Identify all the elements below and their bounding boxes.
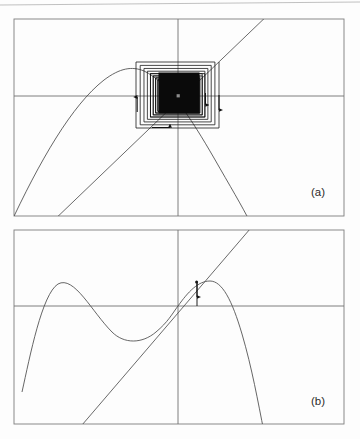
panel-b-fixed-point-marker — [195, 281, 198, 284]
figure-svg: (a) (b) — [0, 0, 360, 439]
figure-container: (a) (b) — [0, 0, 360, 439]
panel-a-fixed-point-dot — [177, 94, 180, 97]
page-background — [0, 0, 360, 439]
panel-a-label: (a) — [311, 186, 325, 198]
panel-b-label: (b) — [311, 395, 325, 407]
panel-a-cobweb-core — [159, 73, 200, 114]
